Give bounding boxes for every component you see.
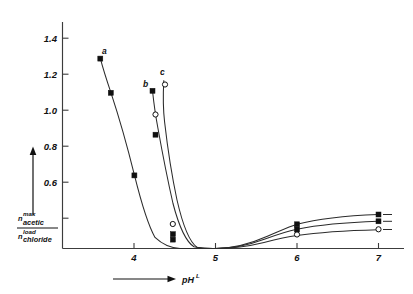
x-tick-labels: 4 5 6 7 xyxy=(130,252,382,263)
y-axis-denominator-sub: chloride xyxy=(23,235,52,244)
x-axis-title-text: pH xyxy=(181,275,194,285)
data-point-marker xyxy=(294,232,299,237)
data-point-marker xyxy=(376,219,381,224)
data-point-marker xyxy=(295,222,300,227)
y-axis-arrow xyxy=(30,147,37,216)
data-point-marker xyxy=(98,56,103,61)
x-axis-arrow xyxy=(113,276,176,283)
y-tick-labels: 1.4 1.2 1.0 0.8 0.6 0.4 xyxy=(44,33,58,224)
y-tick-label: 1.2 xyxy=(44,69,58,80)
y-tick-label: 0.8 xyxy=(44,141,58,152)
y-tick-label: 1.4 xyxy=(44,33,58,44)
y-axis-numerator-sub: acetic xyxy=(23,218,44,227)
chart-plot-area: 1.4 1.2 1.0 0.8 0.6 0.4 4 5 6 7 n xyxy=(0,0,413,294)
data-point-marker xyxy=(150,88,155,93)
x-tick-label: 5 xyxy=(213,252,219,263)
y-axis-numerator-sup: max xyxy=(23,210,36,217)
series-b-line xyxy=(153,91,379,249)
axis-group xyxy=(63,22,405,249)
x-tick-label: 4 xyxy=(130,252,137,263)
x-axis-title: pH L xyxy=(181,272,200,285)
series-label-c: c xyxy=(160,67,165,77)
series-label-b: b xyxy=(143,79,148,89)
x-tick-label: 6 xyxy=(294,252,300,263)
data-point-marker xyxy=(295,227,300,232)
data-point-marker xyxy=(153,112,158,117)
data-point-marker xyxy=(170,237,175,242)
x-tick-label: 7 xyxy=(376,252,382,263)
data-point-marker xyxy=(376,227,381,232)
data-point-marker xyxy=(153,132,158,137)
y-tick-marks xyxy=(63,38,69,218)
series-c: c xyxy=(153,67,392,249)
y-tick-label: 0.6 xyxy=(44,177,58,188)
series-b: b xyxy=(143,79,392,249)
data-point-marker xyxy=(162,82,167,87)
series-label-a: a xyxy=(102,46,107,56)
data-point-marker xyxy=(132,173,137,178)
y-axis-denominator-sup: load xyxy=(23,228,36,235)
data-point-marker xyxy=(170,232,175,237)
series-a: a xyxy=(98,46,392,249)
x-axis-title-superscript: L xyxy=(196,272,200,279)
data-point-marker xyxy=(170,221,175,226)
y-tick-label: 1.0 xyxy=(44,105,58,116)
data-point-marker xyxy=(376,212,381,217)
data-point-marker xyxy=(108,90,113,95)
figure-canvas: 1.4 1.2 1.0 0.8 0.6 0.4 4 5 6 7 n xyxy=(0,0,413,294)
